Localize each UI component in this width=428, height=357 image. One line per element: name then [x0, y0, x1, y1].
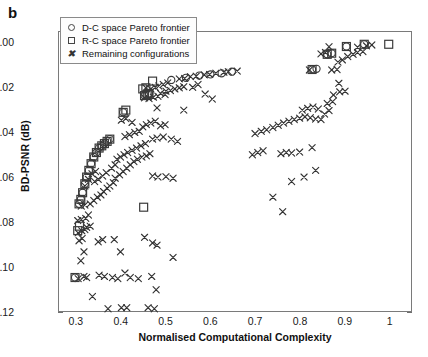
square-icon: [65, 34, 80, 47]
y-tick-label: -0.02: [0, 81, 14, 93]
data-point-remaining: [168, 136, 174, 142]
data-point-remaining: [163, 174, 169, 180]
data-point-remaining: [280, 209, 286, 215]
data-point-remaining: [297, 149, 303, 155]
data-point-remaining: [111, 236, 117, 242]
data-point-remaining: [85, 212, 91, 218]
data-point-remaining: [160, 134, 166, 140]
data-point-remaining: [176, 85, 182, 91]
data-point-remaining: [117, 154, 123, 160]
data-point-remaining: [329, 99, 335, 105]
data-point-remaining: [299, 107, 305, 113]
data-point-rc-frontier: [140, 203, 148, 211]
y-tick-mark: [407, 312, 412, 313]
data-point-remaining: [315, 106, 321, 112]
data-point-remaining: [122, 270, 128, 276]
legend-label-remaining: Remaining configurations: [80, 48, 189, 59]
x-tick-label: 0.3: [69, 315, 84, 327]
data-point-remaining: [289, 178, 295, 184]
data-point-remaining: [76, 238, 82, 244]
data-point-remaining: [326, 107, 332, 113]
data-point-remaining: [286, 118, 292, 124]
data-point-remaining: [103, 170, 109, 176]
data-point-remaining: [132, 129, 138, 135]
data-point-remaining: [127, 274, 133, 280]
data-point-remaining: [101, 273, 107, 279]
legend-item-rc: R-C space Pareto frontier: [65, 34, 190, 47]
data-point-remaining: [170, 175, 176, 181]
data-point-remaining: [94, 194, 100, 200]
data-point-dc-frontier: [207, 71, 214, 78]
y-tick-label: -0.06: [0, 171, 14, 183]
data-point-remaining: [369, 42, 375, 48]
data-point-remaining: [143, 153, 149, 159]
data-point-remaining: [145, 305, 151, 311]
legend-item-dc: D-C space Pareto frontier: [65, 21, 190, 34]
data-point-remaining: [112, 162, 118, 168]
data-point-remaining: [324, 100, 330, 106]
x-axis-label: Normalised Computational Complexity: [58, 331, 412, 343]
data-point-remaining: [258, 128, 264, 134]
data-point-remaining: [114, 156, 120, 162]
data-point-remaining: [115, 276, 121, 282]
data-point-remaining: [209, 96, 215, 102]
figure-panel: b 0.00-0.02-0.04-0.06-0.08-0.10-0.120.30…: [0, 0, 428, 357]
y-tick-label: 0.00: [0, 36, 14, 48]
data-point-remaining: [149, 136, 155, 142]
data-point-dc-frontier: [343, 43, 350, 50]
data-point-remaining: [118, 305, 124, 311]
data-point-remaining: [149, 273, 155, 279]
data-point-remaining: [121, 152, 127, 158]
data-point-remaining: [147, 151, 153, 157]
data-point-remaining: [155, 174, 161, 180]
data-point-remaining: [289, 150, 295, 156]
data-point-remaining: [154, 135, 160, 141]
y-axis-label: BD-PSNR (dB): [19, 96, 31, 216]
data-point-remaining: [151, 306, 157, 312]
data-point-remaining: [249, 152, 255, 158]
data-point-remaining: [129, 119, 135, 125]
data-point-remaining: [270, 194, 276, 200]
x-tick-label: 0.7: [248, 315, 263, 327]
legend-label-dc: D-C space Pareto frontier: [80, 22, 190, 33]
chart-legend: D-C space Pareto frontier R-C space Pare…: [60, 17, 197, 64]
data-point-remaining: [255, 149, 261, 155]
data-point-remaining: [301, 174, 307, 180]
data-point-remaining: [95, 176, 101, 182]
legend-label-rc: R-C space Pareto frontier: [80, 35, 190, 46]
scatter-markers: [59, 32, 411, 311]
data-point-remaining: [252, 130, 258, 136]
y-tick-label: -0.10: [0, 261, 14, 273]
data-point-dc-frontier: [218, 70, 225, 77]
data-point-remaining: [136, 128, 142, 134]
cross-icon: ✖: [65, 47, 80, 60]
data-point-remaining: [124, 305, 130, 311]
data-point-remaining: [162, 122, 168, 128]
data-point-remaining: [158, 123, 164, 129]
data-point-remaining: [131, 158, 137, 164]
data-point-remaining: [360, 49, 366, 55]
data-point-remaining: [81, 249, 87, 255]
data-point-remaining: [275, 122, 281, 128]
data-point-remaining: [92, 178, 98, 184]
data-point-remaining: [202, 91, 208, 97]
data-point-remaining: [158, 90, 164, 96]
y-tick-label: -0.08: [0, 216, 14, 228]
x-tick-label: 0.4: [113, 315, 128, 327]
data-point-remaining: [117, 249, 123, 255]
data-point-remaining: [309, 145, 315, 151]
y-tick-mark: [58, 312, 63, 313]
data-point-remaining: [174, 138, 180, 144]
panel-label: b: [8, 4, 17, 21]
data-point-remaining: [313, 167, 319, 173]
data-point-remaining: [89, 293, 95, 299]
plot-area: [58, 31, 412, 312]
data-point-remaining: [310, 104, 316, 110]
x-tick-label: 0.9: [337, 315, 352, 327]
data-point-remaining: [181, 107, 187, 113]
x-tick-label: 0.6: [203, 315, 218, 327]
data-point-remaining: [270, 124, 276, 130]
data-point-dc-frontier: [228, 68, 235, 75]
data-point-remaining: [336, 80, 342, 86]
x-tick-label: 1: [387, 315, 393, 327]
